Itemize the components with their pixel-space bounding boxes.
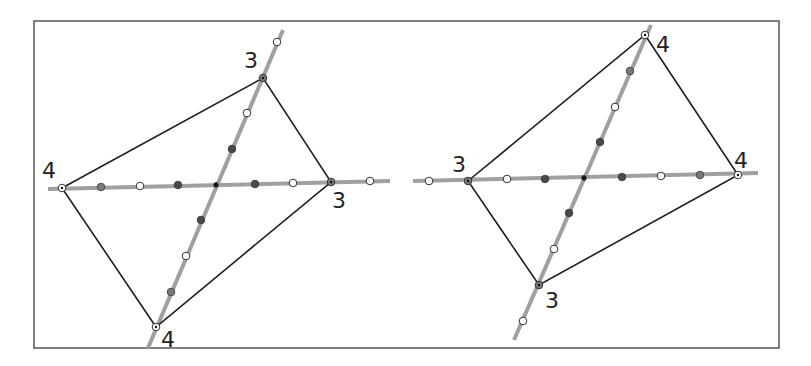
axis-point-dark (618, 173, 626, 181)
axis-point-white (289, 179, 297, 187)
axis-point-dark (228, 145, 236, 153)
axis-point-white (136, 182, 144, 190)
vertex-center-dot (330, 181, 332, 183)
axis-point-dark (197, 216, 205, 224)
axis-point-white (425, 177, 433, 185)
vertex-center-dot (538, 284, 540, 286)
vertex-label: 3 (332, 188, 346, 213)
vertex-label: 3 (545, 288, 559, 313)
axis-point-mid (626, 67, 634, 75)
axis-point-dark (541, 175, 549, 183)
axis-point-mid (167, 288, 175, 296)
axis-point-white (550, 245, 558, 253)
axis-point-white (182, 252, 190, 260)
axis-point-mid (97, 183, 105, 191)
axis-point-center (582, 176, 587, 181)
axis-point-white (611, 103, 619, 111)
vertex-center-dot (262, 77, 264, 79)
quadrilateral (62, 78, 331, 327)
axis-point-dark (596, 138, 604, 146)
axis-point-dark (251, 180, 259, 188)
axis-point-white (657, 172, 665, 180)
axis-point-white (503, 175, 511, 183)
diagram-frame (34, 21, 779, 348)
axis-point-white (519, 317, 527, 325)
vertex-center-dot (644, 34, 646, 36)
right-figure: 3 4 4 3 (413, 25, 758, 340)
axis-point-dark (565, 209, 573, 217)
vertex-label: 3 (452, 152, 466, 177)
axis-point-center (214, 183, 219, 188)
vertices (58, 74, 335, 331)
vertex-label: 4 (42, 158, 56, 183)
vertex-center-dot (61, 187, 63, 189)
vertex-center-dot (737, 174, 739, 176)
axis-points (425, 67, 704, 325)
vertex-center-dot (155, 326, 157, 328)
axis-point-white (273, 38, 281, 46)
axis-point-mid (696, 171, 704, 179)
vertex-label: 4 (734, 148, 748, 173)
axis-point-white (243, 109, 251, 117)
axis-points (97, 38, 374, 296)
left-figure: 4 3 3 4 (42, 30, 390, 352)
vertex-label: 3 (244, 48, 258, 73)
diagram-canvas: 4 3 3 4 3 4 4 3 (0, 0, 811, 366)
vertex-center-dot (467, 180, 469, 182)
axis-point-white (366, 177, 374, 185)
vertex-label: 4 (656, 32, 670, 57)
quadrilateral (468, 35, 738, 285)
axis-point-dark (174, 181, 182, 189)
vertex-label: 4 (161, 327, 175, 352)
